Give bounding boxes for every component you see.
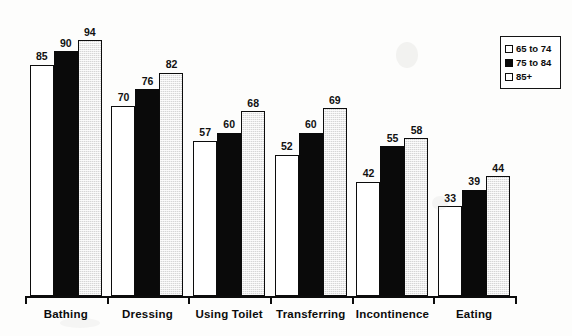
bar-value-label: 82 bbox=[166, 59, 178, 70]
legend-swatch-gray-icon bbox=[505, 73, 513, 81]
bar-value-label: 85 bbox=[36, 51, 48, 62]
axis-tick bbox=[25, 296, 27, 304]
bar-incontinence-85- bbox=[404, 138, 428, 296]
bar-item: 85 bbox=[30, 8, 54, 296]
bar-item: 90 bbox=[54, 8, 78, 296]
bar-item: 55 bbox=[380, 8, 404, 296]
axis-tick bbox=[352, 296, 354, 304]
bar-using-toilet-85- bbox=[241, 111, 265, 296]
bar-value-label: 76 bbox=[142, 76, 154, 87]
bar-transferring-75-to-84 bbox=[299, 133, 323, 296]
bar-item: 94 bbox=[78, 8, 102, 296]
bar-value-label: 90 bbox=[60, 38, 72, 49]
legend-swatch-white-icon bbox=[505, 45, 513, 53]
bar-eating-75-to-84 bbox=[462, 190, 486, 296]
axis-tick bbox=[433, 296, 435, 304]
bar-dressing-85- bbox=[159, 73, 183, 296]
bar-item: 58 bbox=[404, 8, 428, 296]
legend-item-label: 85+ bbox=[516, 72, 532, 82]
bar-item: 76 bbox=[135, 8, 159, 296]
bar-group: 859094 bbox=[25, 8, 107, 296]
bar-item: 52 bbox=[275, 8, 299, 296]
legend-item: 65 to 74 bbox=[505, 42, 556, 55]
bar-value-label: 58 bbox=[411, 125, 423, 136]
bar-item: 57 bbox=[193, 8, 217, 296]
bar-value-label: 42 bbox=[363, 168, 375, 179]
bar-using-toilet-75-to-84 bbox=[217, 133, 241, 296]
plot-area: 859094707682576068526069425558333944 bbox=[25, 8, 515, 296]
legend-swatch-black-icon bbox=[505, 59, 513, 67]
bar-value-label: 94 bbox=[84, 27, 96, 38]
bar-item: 70 bbox=[111, 8, 135, 296]
bar-group: 425558 bbox=[352, 8, 434, 296]
bar-item: 60 bbox=[299, 8, 323, 296]
axis-tick bbox=[270, 296, 272, 304]
bar-dressing-75-to-84 bbox=[135, 89, 159, 296]
bar-item: 69 bbox=[323, 8, 347, 296]
bar-value-label: 33 bbox=[444, 193, 456, 204]
legend-item-label: 75 to 84 bbox=[516, 58, 551, 68]
bar-eating-85- bbox=[486, 176, 510, 296]
legend-item: 85+ bbox=[505, 70, 556, 83]
category-label-using-toilet: Using Toilet bbox=[195, 308, 262, 320]
bar-bathing-75-to-84 bbox=[54, 51, 78, 296]
bar-group: 707682 bbox=[107, 8, 189, 296]
bar-value-label: 68 bbox=[247, 98, 259, 109]
bar-value-label: 39 bbox=[468, 176, 480, 187]
bar-item: 82 bbox=[159, 8, 183, 296]
bar-value-label: 57 bbox=[199, 127, 211, 138]
axis-tick bbox=[515, 296, 517, 304]
bar-bathing-65-to-74 bbox=[30, 65, 54, 296]
bar-transferring-85- bbox=[323, 108, 347, 296]
chart-legend: 65 to 7475 to 8485+ bbox=[500, 36, 561, 89]
axis-tick bbox=[188, 296, 190, 304]
bar-chart: 859094707682576068526069425558333944 65 … bbox=[0, 0, 572, 336]
bar-value-label: 70 bbox=[118, 92, 130, 103]
bar-value-label: 69 bbox=[329, 95, 341, 106]
category-label-incontinence: Incontinence bbox=[356, 308, 429, 320]
bar-group: 526069 bbox=[270, 8, 352, 296]
bar-incontinence-65-to-74 bbox=[356, 182, 380, 296]
bar-value-label: 60 bbox=[305, 119, 317, 130]
category-label-eating: Eating bbox=[456, 308, 492, 320]
legend-item: 75 to 84 bbox=[505, 56, 556, 69]
bar-using-toilet-65-to-74 bbox=[193, 141, 217, 296]
bar-item: 42 bbox=[356, 8, 380, 296]
bar-value-label: 44 bbox=[492, 163, 504, 174]
bar-dressing-65-to-74 bbox=[111, 106, 135, 296]
legend-item-label: 65 to 74 bbox=[516, 44, 551, 54]
category-label-transferring: Transferring bbox=[276, 308, 346, 320]
bar-value-label: 52 bbox=[281, 141, 293, 152]
category-label-dressing: Dressing bbox=[122, 308, 173, 320]
category-label-bathing: Bathing bbox=[44, 308, 88, 320]
axis-tick bbox=[107, 296, 109, 304]
bar-item: 39 bbox=[462, 8, 486, 296]
bar-item: 33 bbox=[438, 8, 462, 296]
bar-bathing-85- bbox=[78, 40, 102, 296]
bar-eating-65-to-74 bbox=[438, 206, 462, 296]
bar-item: 60 bbox=[217, 8, 241, 296]
bar-value-label: 60 bbox=[223, 119, 235, 130]
bar-value-label: 55 bbox=[387, 133, 399, 144]
bar-item: 68 bbox=[241, 8, 265, 296]
bar-transferring-65-to-74 bbox=[275, 155, 299, 296]
bar-incontinence-75-to-84 bbox=[380, 146, 404, 296]
bar-group: 576068 bbox=[188, 8, 270, 296]
